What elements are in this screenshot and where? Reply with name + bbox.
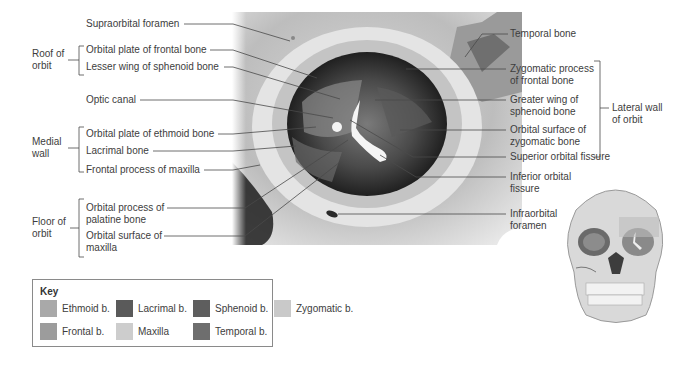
skull-thumbnail — [556, 180, 674, 330]
label-frontal-process-maxilla: Frontal process of maxilla — [86, 164, 200, 176]
swatch-sphenoid — [193, 300, 210, 317]
label-orbital-surface-zygomatic: Orbital surface of zygomatic bone — [510, 124, 586, 148]
legend-item-maxilla: Maxilla — [116, 323, 169, 340]
label-orbital-process-palatine: Orbital process of palatine bone — [86, 202, 164, 226]
label-superior-orbital-fissure: Superior orbital fissure — [510, 151, 610, 163]
group-lateral-wall: Lateral wall of orbit — [612, 102, 663, 126]
swatch-lacrimal — [116, 300, 133, 317]
label-greater-wing-sphenoid: Greater wing of sphenoid bone — [510, 94, 578, 118]
swatch-zygomatic — [274, 300, 291, 317]
group-medial-wall: Medial wall — [32, 136, 61, 160]
legend-item-sphenoid: Sphenoid b. — [193, 300, 268, 317]
legend-item-temporal: Temporal b. — [193, 323, 267, 340]
label-lesser-wing-sphenoid: Lesser wing of sphenoid bone — [86, 61, 219, 73]
label-temporal-bone: Temporal bone — [510, 28, 576, 40]
label-optic-canal: Optic canal — [86, 94, 136, 106]
legend-item-lacrimal: Lacrimal b. — [116, 300, 187, 317]
legend-item-frontal: Frontal b. — [40, 323, 104, 340]
label-orbital-plate-frontal: Orbital plate of frontal bone — [86, 44, 207, 56]
label-orbital-surface-maxilla: Orbital surface of maxilla — [86, 230, 162, 254]
group-floor-of-orbit: Floor of orbit — [32, 216, 66, 240]
label-lacrimal-bone: Lacrimal bone — [86, 145, 149, 157]
legend-item-ethmoid: Ethmoid b. — [40, 300, 110, 317]
swatch-temporal — [193, 323, 210, 340]
swatch-ethmoid — [40, 300, 57, 317]
label-zygomatic-process-frontal: Zygomatic process of frontal bone — [510, 63, 594, 87]
swatch-frontal — [40, 323, 57, 340]
legend-key: Key Ethmoid b. Lacrimal b. Sphenoid b. Z… — [32, 279, 273, 347]
legend-title: Key — [40, 286, 58, 297]
group-roof-of-orbit: Roof of orbit — [32, 48, 64, 72]
label-orbital-plate-ethmoid: Orbital plate of ethmoid bone — [86, 128, 214, 140]
legend-item-zygomatic: Zygomatic b. — [274, 300, 353, 317]
label-infraorbital-foramen: Infraorbital foramen — [510, 208, 557, 232]
label-supraorbital-foramen: Supraorbital foramen — [86, 18, 179, 30]
swatch-maxilla — [116, 323, 133, 340]
